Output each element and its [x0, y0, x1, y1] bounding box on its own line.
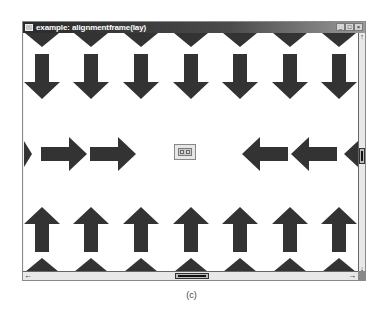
down-arrow-row — [24, 54, 357, 99]
scrollbar-corner — [358, 271, 365, 280]
title-bar[interactable]: example: alignmentframe(lay) _ □ × — [23, 22, 365, 33]
scroll-up-arrow-icon[interactable]: ↑ — [359, 33, 365, 40]
window-controls: _ □ × — [336, 23, 363, 31]
right-arrow-row — [24, 137, 136, 171]
scroll-left-arrow-icon[interactable]: ← — [24, 272, 32, 280]
up-arrow-row — [24, 207, 357, 252]
window-title: example: alignmentframe(lay) — [36, 22, 146, 33]
left-arrow-row — [242, 137, 358, 171]
center-frame-cell-right — [186, 150, 190, 154]
close-button[interactable]: × — [354, 23, 363, 31]
scroll-right-arrow-icon[interactable]: → — [348, 272, 356, 280]
figure-caption: (c) — [0, 290, 383, 300]
horizontal-scrollbar[interactable]: ← → — [23, 271, 365, 280]
application-window: example: alignmentframe(lay) _ □ × — [22, 21, 366, 281]
bottom-triangle-row — [25, 258, 356, 272]
maximize-button[interactable]: □ — [345, 23, 354, 31]
vertical-scroll-thumb[interactable] — [359, 148, 365, 164]
vertical-scrollbar[interactable]: ↑ ↓ — [358, 33, 365, 272]
minimize-button[interactable]: _ — [336, 23, 345, 31]
center-frame-inner — [178, 148, 192, 156]
alignment-canvas — [24, 33, 358, 272]
horizontal-scroll-thumb[interactable] — [175, 273, 209, 279]
top-triangle-row — [25, 33, 356, 47]
app-icon — [25, 24, 33, 31]
center-frame-widget[interactable] — [174, 144, 196, 160]
center-frame-cell-left — [180, 150, 184, 154]
